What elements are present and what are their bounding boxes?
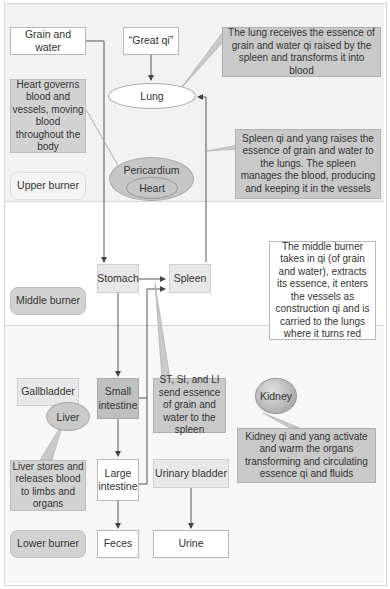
large-intestine-box: Large intestine	[97, 459, 139, 501]
kidney-note: Kidney qi and yang activate and warm the…	[237, 428, 376, 483]
grain-and-water-box: Grain and water	[10, 27, 86, 55]
liver-note: Liver stores and releases blood to limbs…	[10, 460, 86, 511]
liver-node: Liver	[46, 402, 90, 431]
middle-burner-note: The middle burner takes in qi (of grain …	[269, 241, 376, 340]
spleen-note: Spleen qi and yang raises the essence of…	[235, 129, 381, 199]
feces-box: Feces	[97, 530, 139, 558]
spleen-box: Spleen	[169, 264, 211, 293]
urinary-bladder-box: Urinary bladder	[153, 459, 229, 488]
kidney-node: Kidney	[255, 378, 297, 414]
st-si-li-note: ST, SI, and LI send essence of grain and…	[153, 378, 226, 433]
lung-node: Lung	[108, 83, 196, 109]
lung-note: The lung receives the essence of grain a…	[222, 27, 381, 77]
urine-box: Urine	[153, 530, 229, 558]
stomach-box: Stomach	[97, 264, 139, 293]
middle-burner-label: Middle burner	[10, 287, 86, 315]
heart-note: Heart governs blood and vessels, moving …	[10, 79, 86, 153]
lower-burner-label: Lower burner	[10, 530, 86, 558]
upper-burner-label: Upper burner	[10, 172, 86, 200]
small-intestine-box: Small intestine	[97, 378, 139, 419]
heart-node: Heart	[126, 177, 178, 199]
great-qi-box: “Great qi”	[123, 27, 179, 55]
